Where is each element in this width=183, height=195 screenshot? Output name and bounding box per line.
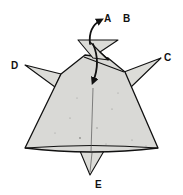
- label-d: D: [11, 60, 18, 71]
- label-b: B: [123, 13, 130, 24]
- origami-diagram: A B C D E: [0, 0, 183, 195]
- label-a: A: [104, 13, 111, 24]
- label-c: C: [164, 52, 171, 63]
- label-e: E: [95, 179, 102, 190]
